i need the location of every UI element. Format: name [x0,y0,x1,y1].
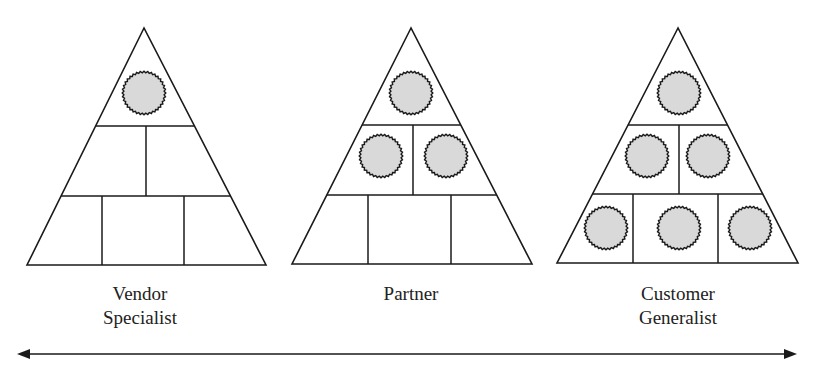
label-partner: Partner [311,282,511,306]
filled-circle-icon [584,206,628,250]
label-customer: Customer [578,282,778,306]
label-customer-generalist: Customer Generalist [578,282,778,330]
label-partner-text: Partner [311,282,511,306]
arrowhead-right-icon [784,349,797,359]
double-headed-arrow [17,349,797,359]
label-vendor: Vendor [40,282,240,306]
filled-circle-icon [424,134,468,178]
label-vendor-specialist: Vendor Specialist [40,282,240,330]
filled-circle-icon [657,206,701,250]
filled-circle-icon [389,71,433,115]
filled-circle-icon [122,71,166,115]
label-specialist: Specialist [40,306,240,330]
filled-circle-icon [686,134,730,178]
pyramid-partner [292,28,532,264]
triangle-outline [292,28,532,264]
filled-circle-icon [728,206,772,250]
filled-circle-icon [657,71,701,115]
filled-circle-icon [359,134,403,178]
pyramid-customer [557,28,798,263]
pyramid-vendor [27,28,266,265]
label-generalist: Generalist [578,306,778,330]
filled-circle-icon [625,134,669,178]
arrowhead-left-icon [17,349,30,359]
